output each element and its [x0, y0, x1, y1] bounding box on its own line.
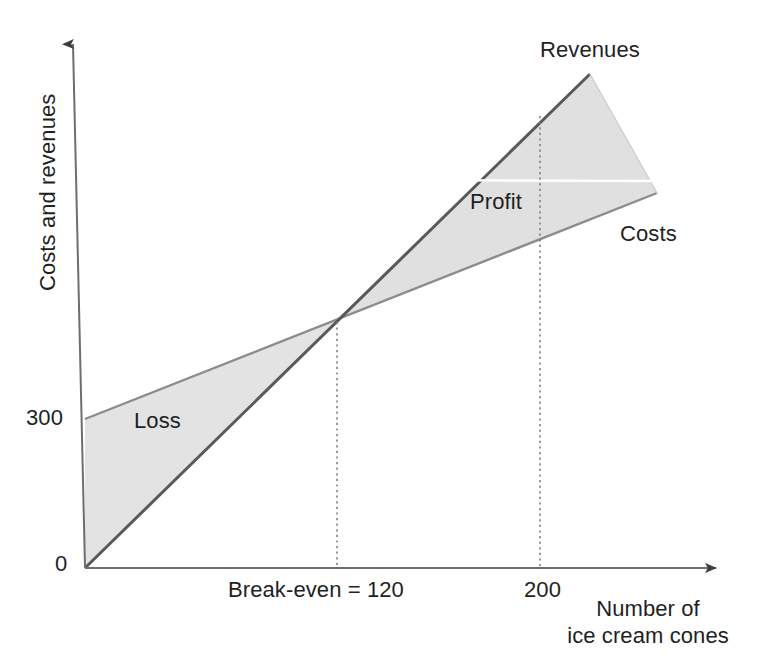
- chart-plot-area: [0, 0, 761, 665]
- profit-region-label: Profit: [470, 190, 522, 215]
- revenues-series-label: Revenues: [540, 38, 640, 63]
- x-axis-title-line-1: Number of: [558, 596, 738, 623]
- y-tick-label-300: 300: [26, 406, 63, 431]
- scan-artifact-line: [355, 180, 655, 181]
- y-axis-title: Costs and revenues: [36, 77, 61, 307]
- costs-line: [85, 193, 657, 419]
- x-axis-title: Number of ice cream cones: [558, 596, 738, 650]
- x-tick-label-200: 200: [524, 578, 561, 603]
- costs-series-label: Costs: [620, 222, 677, 247]
- loss-region-label: Loss: [134, 409, 181, 434]
- y-tick-label-0: 0: [55, 552, 67, 577]
- break-even-chart-figure: Costs and revenues Number of ice cream c…: [0, 0, 761, 665]
- revenues-line: [85, 74, 590, 568]
- x-tick-label-breakeven: Break-even = 120: [228, 578, 404, 603]
- y-axis-line: [73, 44, 85, 568]
- x-axis-title-line-2: ice cream cones: [558, 623, 738, 650]
